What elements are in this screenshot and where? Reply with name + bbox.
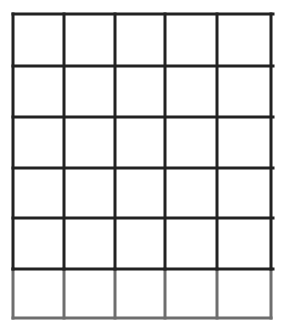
- grid-lines: [0, 0, 284, 326]
- grid-diagram: [0, 0, 284, 326]
